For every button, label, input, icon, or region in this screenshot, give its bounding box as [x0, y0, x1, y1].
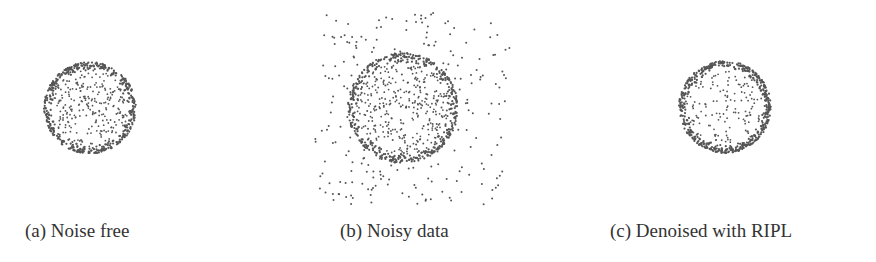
- plot-denoised: [678, 60, 772, 154]
- plot-noisy-data: [314, 12, 510, 205]
- plot-noise-free: [43, 61, 137, 154]
- caption-noisy-data: (b) Noisy data: [340, 220, 449, 242]
- caption-denoised: (c) Denoised with RIPL: [610, 220, 792, 242]
- caption-noise-free: (a) Noise free: [25, 220, 129, 242]
